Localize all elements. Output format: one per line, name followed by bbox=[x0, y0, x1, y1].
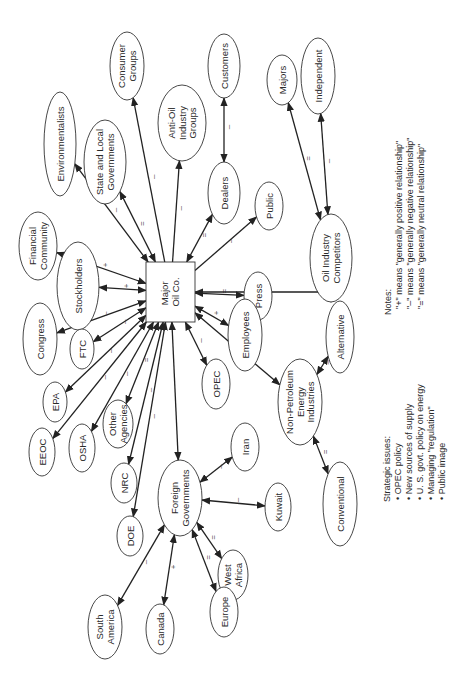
major-oil-label-1: Major bbox=[159, 281, 170, 305]
node-label: South bbox=[94, 615, 105, 640]
edge-sign: – bbox=[176, 206, 185, 211]
node-label: Conventional bbox=[335, 476, 346, 531]
notes-heading: Notes: bbox=[383, 289, 393, 315]
issue-supply: • New sources of supply bbox=[404, 403, 414, 500]
node-label: State and Local bbox=[94, 129, 105, 195]
stakeholder-diagram: ––=––=–=+=–++–––––=–––––==+––= ConsumerG… bbox=[0, 0, 466, 685]
edge-sign: = bbox=[209, 535, 218, 540]
node-label: Stockholders bbox=[73, 258, 84, 313]
edge-sign: – bbox=[122, 371, 131, 376]
node-label: Europe bbox=[219, 597, 230, 628]
node-label: EEOC bbox=[37, 438, 48, 465]
node-label: Industries bbox=[305, 381, 316, 422]
edge-sign: + bbox=[122, 283, 131, 288]
svg-text:Customers: Customers bbox=[219, 43, 230, 89]
svg-text:Anti-OilIndustryGroups: Anti-OilIndustryGroups bbox=[166, 106, 198, 140]
strategic-issues: Strategic issues: • OPEC policy • New so… bbox=[382, 384, 447, 502]
node-label: Financial bbox=[27, 227, 38, 265]
node-label: Alternative bbox=[335, 315, 346, 360]
issue-opec: • OPEC policy bbox=[393, 443, 403, 500]
node-alternative: Alternative bbox=[326, 301, 354, 373]
nodes-layer: ConsumerGroupsEnvironmentalistsState and… bbox=[19, 32, 357, 659]
node-label: Employees bbox=[240, 311, 251, 358]
node-label: OSHA bbox=[77, 434, 88, 462]
svg-text:Employees: Employees bbox=[240, 311, 251, 358]
svg-text:Majors: Majors bbox=[277, 66, 288, 95]
svg-text:EPA: EPA bbox=[50, 392, 61, 411]
edge-sign: – bbox=[120, 319, 129, 324]
node-ftc: FTC bbox=[70, 329, 94, 369]
svg-text:Dealers: Dealers bbox=[219, 176, 230, 209]
node-label: Kuwait bbox=[273, 492, 284, 521]
node-independent: Independent bbox=[301, 38, 335, 114]
edge-sign: – bbox=[224, 124, 233, 129]
node-label: Agencies bbox=[118, 404, 129, 443]
note-positive: "+" means "generally positive relationsh… bbox=[394, 141, 404, 309]
edge-sign: – bbox=[324, 158, 333, 163]
node-label: Groups bbox=[127, 50, 138, 81]
node-label: Environmentalists bbox=[55, 106, 66, 181]
svg-text:WestAfrica: WestAfrica bbox=[222, 562, 244, 587]
node-label: Competitors bbox=[331, 232, 342, 283]
node-osha: OSHA bbox=[69, 424, 95, 472]
node-anti-oil: Anti-OilIndustryGroups bbox=[158, 85, 206, 161]
edge-sign: = bbox=[200, 233, 209, 238]
edge-sign: = bbox=[142, 357, 151, 362]
note-neutral: "=" means "generally neutral relationshi… bbox=[416, 144, 426, 309]
node-label: Industry bbox=[177, 106, 188, 140]
node-epa: EPA bbox=[43, 382, 67, 422]
edge-sign: – bbox=[196, 338, 205, 343]
issue-public-image: • Public image bbox=[437, 443, 447, 500]
svg-text:FinancialCommunity: FinancialCommunity bbox=[27, 222, 49, 270]
node-label: Community bbox=[38, 222, 49, 270]
svg-text:Public: Public bbox=[264, 193, 275, 219]
edge-sign: = bbox=[138, 221, 147, 226]
node-iran: Iran bbox=[231, 423, 259, 471]
edge-sign: – bbox=[216, 464, 225, 469]
node-environmentalists: Environmentalists bbox=[44, 92, 76, 196]
edge-sign: – bbox=[149, 174, 158, 179]
node-label: America bbox=[105, 609, 116, 645]
node-eeoc: EEOC bbox=[29, 428, 55, 476]
svg-text:OPEC: OPEC bbox=[211, 370, 222, 397]
node-label: Consumer bbox=[116, 44, 127, 88]
edge-sign: – bbox=[233, 497, 242, 502]
edge-sign: + bbox=[212, 310, 221, 315]
node-label: Congress bbox=[35, 318, 46, 359]
edge-sign: – bbox=[226, 238, 235, 243]
node-label: West bbox=[222, 564, 233, 586]
node-label: Dealers bbox=[219, 176, 230, 209]
major-oil-label-2: Oil Co. bbox=[170, 277, 181, 306]
svg-text:DOE: DOE bbox=[125, 526, 136, 547]
edge-sign: – bbox=[101, 311, 110, 316]
node-label: Non-Petroleum bbox=[284, 370, 295, 434]
node-consumer-groups: ConsumerGroups bbox=[110, 32, 144, 100]
strategic-issues-heading: Strategic issues: bbox=[382, 436, 392, 502]
node-label: Iran bbox=[240, 439, 251, 455]
node-europe: Europe bbox=[210, 587, 238, 637]
svg-text:Congress: Congress bbox=[35, 318, 46, 359]
node-non-petroleum: Non-PetroleumEnergyIndustries bbox=[278, 359, 322, 445]
edge-sign: = bbox=[204, 555, 213, 560]
svg-text:Oil IndustryCompetitors: Oil IndustryCompetitors bbox=[320, 232, 342, 283]
svg-text:Environmentalists: Environmentalists bbox=[55, 106, 66, 181]
edge-sign: = bbox=[304, 156, 313, 161]
node-label: OPEC bbox=[211, 370, 222, 397]
issue-regulation: • Managing "regulation" bbox=[426, 406, 436, 500]
svg-text:Stockholders: Stockholders bbox=[73, 258, 84, 313]
node-label: Independent bbox=[313, 49, 324, 102]
svg-text:Iran: Iran bbox=[240, 439, 251, 455]
svg-text:Europe: Europe bbox=[219, 597, 230, 628]
edge-sign: – bbox=[111, 207, 120, 212]
edge-sign: + bbox=[169, 564, 178, 569]
svg-text:OSHA: OSHA bbox=[77, 434, 88, 462]
node-south-america: SouthAmerica bbox=[88, 595, 122, 659]
node-label: Africa bbox=[233, 562, 244, 587]
svg-text:NRC: NRC bbox=[119, 473, 130, 494]
node-public: Public bbox=[255, 182, 283, 230]
node-foreign-govts: ForeignGovernments bbox=[158, 460, 202, 536]
edge-sign: – bbox=[100, 375, 109, 380]
node-employees: Employees bbox=[228, 299, 262, 371]
node-congress: Congress bbox=[23, 303, 57, 375]
node-label: NRC bbox=[119, 473, 130, 494]
